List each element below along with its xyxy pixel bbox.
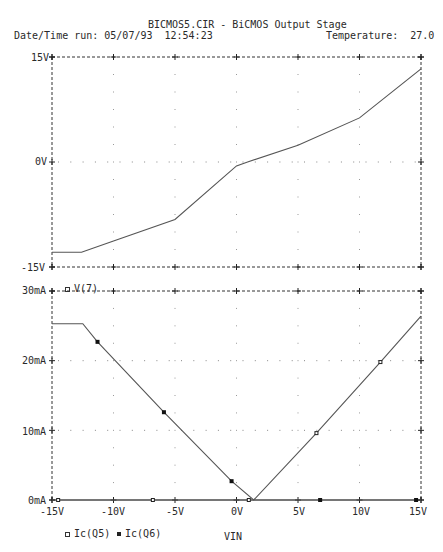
grid-dot — [175, 144, 176, 145]
grid-dot — [390, 162, 391, 163]
grid-dot — [95, 162, 96, 163]
grid-dot — [120, 430, 121, 431]
grid-dot — [359, 249, 360, 250]
grid-dot — [230, 430, 231, 431]
grid-dot — [107, 360, 108, 361]
grid-dot — [95, 430, 96, 431]
grid-dot — [359, 109, 360, 110]
grid-dot — [175, 343, 176, 344]
grid-dot — [359, 343, 360, 344]
grid-dot — [107, 430, 108, 431]
open-square-marker-icon — [247, 499, 250, 502]
grid-dot — [175, 482, 176, 483]
grid-dot — [353, 162, 354, 163]
grid-dot — [175, 308, 176, 309]
grid-dot — [353, 430, 354, 431]
grid-dot — [120, 360, 121, 361]
filled-square-marker-icon — [162, 410, 166, 414]
filled-square-marker-icon — [230, 479, 234, 483]
grid-dot — [169, 360, 170, 361]
grid-dot — [236, 378, 237, 379]
grid-dot — [279, 360, 280, 361]
grid-dot — [402, 430, 403, 431]
grid-dot — [175, 214, 176, 215]
grid-dot — [175, 249, 176, 250]
grid-dot — [236, 197, 237, 198]
grid-dot — [236, 249, 237, 250]
trace-icq6 — [52, 324, 421, 500]
grid-dot — [113, 144, 114, 145]
grid-dot — [298, 482, 299, 483]
grid-dot — [120, 162, 121, 163]
grid-dot — [175, 92, 176, 93]
grid-dot — [267, 430, 268, 431]
grid-dot — [175, 179, 176, 180]
grid-dot — [175, 74, 176, 75]
grid-dot — [113, 74, 114, 75]
grid-dot — [193, 360, 194, 361]
grid-dot — [304, 430, 305, 431]
grid-dot — [298, 92, 299, 93]
grid-dot — [230, 162, 231, 163]
grid-dot — [113, 395, 114, 396]
grid-dot — [390, 430, 391, 431]
grid-dot — [236, 74, 237, 75]
grid-dot — [218, 360, 219, 361]
grid-dot — [70, 162, 71, 163]
grid-dot — [359, 482, 360, 483]
grid-dot — [279, 430, 280, 431]
grid-dot — [298, 109, 299, 110]
grid-dot — [218, 162, 219, 163]
grid-dot — [236, 127, 237, 128]
grid-dot — [243, 430, 244, 431]
grid-dot — [402, 162, 403, 163]
grid-dot — [58, 430, 59, 431]
grid-dot — [359, 325, 360, 326]
grid-dot — [144, 360, 145, 361]
grid-dot — [113, 179, 114, 180]
grid-dot — [359, 74, 360, 75]
grid-dot — [255, 360, 256, 361]
grid-dot — [236, 109, 237, 110]
grid-dot — [113, 378, 114, 379]
grid-dot — [298, 412, 299, 413]
grid-dot — [359, 162, 360, 163]
grid-dot — [132, 162, 133, 163]
grid-dot — [298, 343, 299, 344]
grid-dot — [218, 430, 219, 431]
grid-dot — [175, 378, 176, 379]
grid-dot — [298, 74, 299, 75]
grid-dot — [236, 395, 237, 396]
grid-dot — [390, 360, 391, 361]
grid-dot — [206, 162, 207, 163]
grid-dot — [298, 197, 299, 198]
grid-dot — [236, 430, 237, 431]
grid-dot — [359, 430, 360, 431]
grid-dot — [359, 92, 360, 93]
grid-dot — [292, 430, 293, 431]
grid-dot — [366, 430, 367, 431]
grid-dot — [359, 308, 360, 309]
grid-dot — [175, 412, 176, 413]
grid-dot — [230, 360, 231, 361]
grid-dot — [113, 325, 114, 326]
grid-dot — [298, 179, 299, 180]
grid-dot — [193, 162, 194, 163]
grid-dot — [236, 412, 237, 413]
grid-dot — [316, 162, 317, 163]
grid-dot — [113, 465, 114, 466]
grid-dot — [169, 430, 170, 431]
grid-dot — [175, 325, 176, 326]
grid-dot — [316, 430, 317, 431]
open-square-marker-icon — [379, 361, 382, 364]
grid-dot — [298, 465, 299, 466]
grid-dot — [175, 162, 176, 163]
grid-dot — [236, 447, 237, 448]
grid-dot — [359, 127, 360, 128]
filled-square-marker-icon — [96, 340, 100, 344]
grid-dot — [341, 162, 342, 163]
grid-dot — [304, 360, 305, 361]
grid-dot — [298, 232, 299, 233]
trace-v7 — [52, 69, 421, 252]
grid-dot — [304, 162, 305, 163]
